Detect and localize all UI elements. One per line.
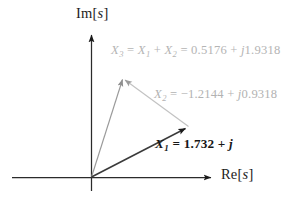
x1-imaginary-unit: j [229,136,233,151]
x2-equals: = [167,87,181,101]
x3-plus-operator: + [150,43,164,57]
imaginary-axis-label: Im[s] [76,5,108,22]
x1-real-part: 1.732 + [184,136,229,151]
phasor-diagram: Im[s] Re[s] X3 = X1 + X2 = 0.5176 + j1.9… [0,0,304,199]
vector-x2-label: X2 = −1.2144 + j0.9318 [154,87,277,103]
x1-symbol: X [155,136,164,151]
real-axis-label: Re[s] [221,166,253,183]
x3-real-part: 0.5176 + [191,43,241,57]
x3-symbol: X [111,43,119,57]
x3-term-a-symbol: X [138,43,146,57]
x1-equals: = [169,136,184,151]
vector-x1-label: X1 = 1.732 + j [155,136,233,153]
x3-equals-second: = [177,43,191,57]
re-axis-prefix: Re [221,166,238,182]
x2-symbol: X [154,87,162,101]
im-axis-close-bracket: ] [103,5,108,21]
x3-equals-first: = [124,43,138,57]
vector-x3-label: X3 = X1 + X2 = 0.5176 + j1.9318 [111,43,280,59]
re-axis-close-bracket: ] [248,166,253,182]
x2-real-part: −1.2144 + [181,87,238,101]
im-axis-prefix: Im [76,5,93,21]
vector-x3-line [92,80,123,178]
x3-imaginary-part: 1.9318 [245,43,281,57]
x2-imaginary-part: 0.9318 [242,87,278,101]
